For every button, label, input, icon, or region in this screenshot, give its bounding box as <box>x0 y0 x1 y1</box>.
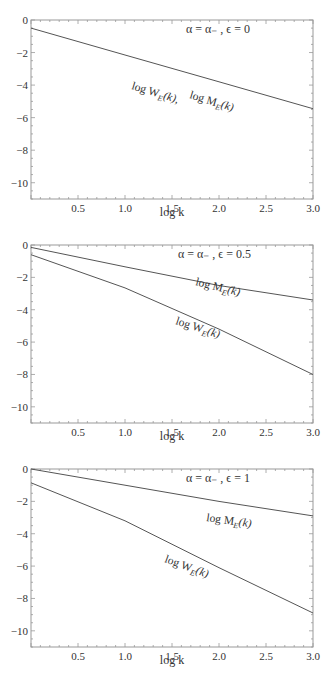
y-tick-label: 0 <box>23 463 29 475</box>
x-axis-title: log k <box>160 653 184 667</box>
curve-log-w <box>31 483 313 613</box>
x-tick-label: 2.0 <box>212 650 226 662</box>
x-tick-label: 3.0 <box>306 650 320 662</box>
x-tick-label: 2.5 <box>259 650 273 662</box>
curve-label-m: log ME(k) <box>205 511 252 532</box>
x-tick-label: 1.0 <box>118 202 132 214</box>
y-tick-label: −4 <box>16 528 28 540</box>
y-tick-label: −4 <box>16 79 28 91</box>
y-tick-label: −10 <box>11 401 29 413</box>
y-tick-label: −8 <box>16 592 28 604</box>
curve-log-m <box>31 469 313 516</box>
y-tick-label: −6 <box>16 336 28 348</box>
x-tick-label: 2.0 <box>212 202 226 214</box>
y-tick-label: 0 <box>23 14 29 26</box>
curve-log-w <box>31 255 313 375</box>
x-axis: 0.51.01.52.02.53.0 <box>31 245 320 438</box>
curve-label-m: log ME(k) <box>188 88 236 116</box>
panel-1: 0−2−4−6−8−10 0.51.01.52.02.53.0 α = α₋ ,… <box>11 14 321 219</box>
svg-text:log WE(k),: log WE(k), <box>130 79 181 108</box>
x-tick-label: 2.5 <box>259 426 273 438</box>
x-axis-title: log k <box>160 205 184 219</box>
y-tick-label: 0 <box>23 239 29 251</box>
curve-label-w-m: log WE(k), <box>130 79 181 108</box>
y-axis: 0−2−4−6−8−10 <box>11 239 313 423</box>
y-tick-label: −6 <box>16 560 28 572</box>
y-tick-label: −2 <box>16 495 28 507</box>
y-axis: 0−2−4−6−8−10 <box>11 463 313 647</box>
parameter-annotation: α = α₋ , ϵ = 1 <box>186 471 250 485</box>
x-axis-title: log k <box>160 429 184 443</box>
x-tick-label: 0.5 <box>71 426 85 438</box>
x-tick-label: 2.0 <box>212 426 226 438</box>
panel-2: 0−2−4−6−8−10 0.51.01.52.02.53.0 α = α₋ ,… <box>11 239 321 443</box>
y-tick-label: −2 <box>16 47 28 59</box>
svg-text:log WE(k): log WE(k) <box>162 553 210 583</box>
curve-label-m: log ME(k) <box>194 275 242 301</box>
plot-frame <box>31 20 313 199</box>
x-axis: 0.51.01.52.02.53.0 <box>31 20 320 214</box>
parameter-annotation: α = α₋ , ϵ = 0.5 <box>178 247 251 261</box>
x-tick-label: 3.0 <box>306 202 320 214</box>
y-tick-label: −4 <box>16 304 28 316</box>
x-tick-label: 0.5 <box>71 650 85 662</box>
svg-text:log WE(k): log WE(k) <box>173 314 221 342</box>
panel-3: 0−2−4−6−8−10 0.51.01.52.02.53.0 α = α₋ ,… <box>11 463 321 667</box>
figure: 0−2−4−6−8−10 0.51.01.52.02.53.0 α = α₋ ,… <box>0 0 331 676</box>
curve-label-w: log WE(k) <box>173 314 221 342</box>
y-tick-label: −8 <box>16 368 28 380</box>
x-tick-label: 2.5 <box>259 202 273 214</box>
x-tick-label: 1.0 <box>118 650 132 662</box>
svg-text:log ME(k): log ME(k) <box>188 88 236 116</box>
y-tick-label: −10 <box>11 625 29 637</box>
y-tick-label: −6 <box>16 112 28 124</box>
y-axis: 0−2−4−6−8−10 <box>11 14 313 199</box>
y-tick-label: −2 <box>16 271 28 283</box>
curve-label-w: log WE(k) <box>162 553 210 583</box>
x-tick-label: 3.0 <box>306 426 320 438</box>
y-tick-label: −8 <box>16 144 28 156</box>
y-tick-label: −10 <box>11 177 29 189</box>
parameter-annotation: α = α₋ , ϵ = 0 <box>186 22 250 36</box>
x-tick-label: 0.5 <box>71 202 85 214</box>
svg-text:log ME(k): log ME(k) <box>205 511 252 532</box>
x-tick-label: 1.0 <box>118 426 132 438</box>
plot-frame <box>31 245 313 423</box>
curve-log-m <box>31 247 313 300</box>
svg-text:log ME(k): log ME(k) <box>194 275 242 301</box>
